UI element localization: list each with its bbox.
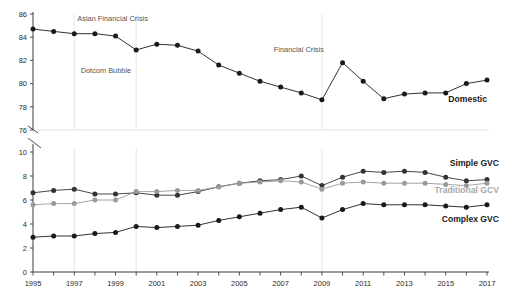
data-point bbox=[237, 214, 242, 219]
y-axis-tick-label: 78 bbox=[19, 103, 27, 112]
data-point bbox=[340, 181, 345, 186]
data-point bbox=[216, 63, 221, 68]
y-axis-tick-label: 82 bbox=[19, 56, 27, 65]
data-point bbox=[196, 49, 201, 54]
data-point bbox=[51, 29, 56, 34]
y-axis-tick-label: 4 bbox=[23, 220, 27, 229]
x-axis-tick-label: 2017 bbox=[479, 279, 496, 288]
x-axis-tick-label: 2013 bbox=[396, 279, 413, 288]
data-point bbox=[154, 225, 159, 230]
series-label-domestic: Domestic bbox=[448, 94, 487, 104]
data-point bbox=[278, 85, 283, 90]
data-point bbox=[299, 90, 304, 95]
data-point bbox=[72, 234, 77, 239]
data-point bbox=[423, 202, 428, 207]
data-point bbox=[402, 181, 407, 186]
data-point bbox=[92, 198, 97, 203]
data-point bbox=[340, 60, 345, 65]
y-axis-tick-label: 76 bbox=[19, 126, 27, 135]
data-point bbox=[340, 207, 345, 212]
series-label-simple-gvc: Simple GVC bbox=[450, 158, 499, 168]
data-point bbox=[381, 96, 386, 101]
x-axis-tick-label: 2011 bbox=[355, 279, 371, 288]
annotation-asian-financial-crisis: Asian Financial Crisis bbox=[77, 14, 148, 23]
data-point bbox=[464, 205, 469, 210]
data-point bbox=[134, 47, 139, 52]
data-point bbox=[464, 178, 469, 183]
data-point bbox=[51, 201, 56, 206]
data-point bbox=[134, 189, 139, 194]
data-point bbox=[361, 201, 366, 206]
data-point bbox=[31, 190, 36, 195]
data-point bbox=[196, 188, 201, 193]
data-point bbox=[72, 187, 77, 192]
data-point bbox=[31, 27, 36, 32]
data-point bbox=[278, 178, 283, 183]
data-point bbox=[237, 71, 242, 76]
data-point bbox=[443, 175, 448, 180]
data-point bbox=[92, 192, 97, 197]
data-point bbox=[319, 97, 324, 102]
data-point bbox=[299, 174, 304, 179]
data-point bbox=[278, 207, 283, 212]
data-point bbox=[361, 180, 366, 185]
annotation-dotcom-bubble: Dotcom Bubble bbox=[81, 66, 132, 75]
y-axis-tick-label: 86 bbox=[19, 10, 27, 19]
x-axis-tick-label: 2007 bbox=[272, 279, 289, 288]
chart-figure: 7678808284860246810199519971999200120032… bbox=[0, 0, 505, 298]
data-point bbox=[361, 79, 366, 84]
data-point bbox=[485, 78, 490, 83]
data-point bbox=[258, 79, 263, 84]
x-axis-tick-label: 1995 bbox=[25, 279, 42, 288]
data-point bbox=[381, 181, 386, 186]
y-axis-tick-label: 6 bbox=[23, 196, 27, 205]
chart-background bbox=[0, 0, 505, 298]
data-point bbox=[31, 202, 36, 207]
series-label-complex-gvc: Complex GVC bbox=[442, 214, 499, 224]
data-point bbox=[423, 90, 428, 95]
data-point bbox=[237, 181, 242, 186]
data-point bbox=[134, 224, 139, 229]
data-point bbox=[216, 184, 221, 189]
chart-canvas: 7678808284860246810199519971999200120032… bbox=[0, 0, 505, 298]
y-axis-tick-label: 84 bbox=[19, 33, 27, 42]
series-label-traditional-gcv: Traditional GCV bbox=[435, 185, 500, 195]
data-point bbox=[175, 193, 180, 198]
annotation-financial-crisis: Financial Crisis bbox=[274, 45, 324, 54]
data-point bbox=[443, 204, 448, 209]
data-point bbox=[381, 170, 386, 175]
data-point bbox=[402, 202, 407, 207]
data-point bbox=[319, 187, 324, 192]
data-point bbox=[154, 189, 159, 194]
data-point bbox=[340, 175, 345, 180]
x-axis-tick-label: 2005 bbox=[231, 279, 248, 288]
data-point bbox=[113, 198, 118, 203]
data-point bbox=[361, 169, 366, 174]
data-point bbox=[92, 231, 97, 236]
data-point bbox=[175, 43, 180, 48]
data-point bbox=[402, 169, 407, 174]
data-point bbox=[113, 192, 118, 197]
y-axis-tick-label: 8 bbox=[23, 172, 27, 181]
data-point bbox=[423, 181, 428, 186]
data-point bbox=[464, 81, 469, 86]
data-point bbox=[175, 224, 180, 229]
y-axis-tick-label: 2 bbox=[23, 244, 27, 253]
data-point bbox=[175, 188, 180, 193]
x-axis-tick-label: 2009 bbox=[314, 279, 331, 288]
data-point bbox=[485, 202, 490, 207]
data-point bbox=[423, 170, 428, 175]
x-axis-tick-label: 2003 bbox=[190, 279, 207, 288]
data-point bbox=[154, 42, 159, 47]
data-point bbox=[258, 211, 263, 216]
x-axis-tick-label: 1997 bbox=[66, 279, 83, 288]
data-point bbox=[258, 180, 263, 185]
data-point bbox=[51, 234, 56, 239]
x-axis-tick-label: 1999 bbox=[107, 279, 124, 288]
x-axis-tick-label: 2001 bbox=[148, 279, 165, 288]
data-point bbox=[113, 34, 118, 39]
y-axis-tick-label: 80 bbox=[19, 79, 27, 88]
data-point bbox=[92, 31, 97, 36]
data-point bbox=[51, 188, 56, 193]
data-point bbox=[299, 205, 304, 210]
